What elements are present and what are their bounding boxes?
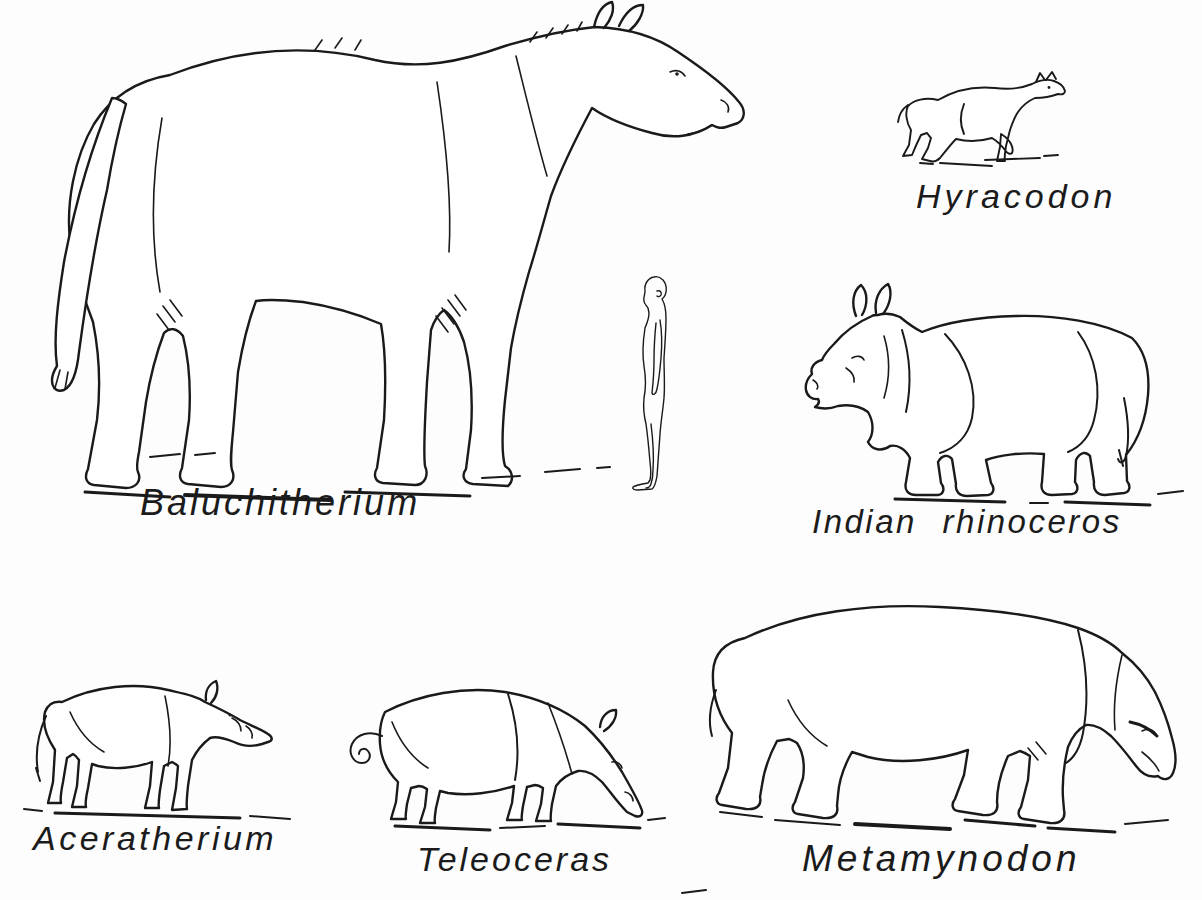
label-aceratherium: Aceratherium bbox=[33, 819, 277, 858]
teleoceras-curled-tail bbox=[351, 733, 382, 763]
indian-rhino-ground-dash bbox=[1158, 491, 1183, 494]
hyracodon-eye bbox=[1048, 86, 1051, 89]
indian-rhino-ears bbox=[853, 284, 890, 316]
teleoceras-ground-line bbox=[558, 824, 640, 828]
human-outline bbox=[633, 277, 667, 490]
metamynodon-ground-dash bbox=[1125, 820, 1168, 824]
metamynodon-ground-line bbox=[855, 824, 950, 829]
indian-rhinoceros-figure bbox=[806, 284, 1183, 505]
baluchitherium-figure bbox=[52, 2, 744, 500]
illustration-canvas: Baluchitherium Hyracodon Indian rhinocer… bbox=[0, 0, 1202, 900]
human-figure bbox=[633, 277, 667, 490]
teleoceras-ground-dash bbox=[648, 818, 665, 820]
baluchitherium-body-outline bbox=[69, 27, 744, 488]
indian-rhino-ground-line bbox=[895, 499, 1005, 502]
hyracodon-body-outline bbox=[903, 80, 1065, 161]
line-art bbox=[0, 0, 1202, 900]
aceratherium-ground-line bbox=[55, 813, 240, 818]
metamynodon-body-outline bbox=[713, 606, 1176, 823]
label-teleoceras: Teleoceras bbox=[417, 840, 612, 879]
aceratherium-ear bbox=[206, 681, 218, 703]
teleoceras-ear bbox=[600, 710, 616, 731]
hyracodon-figure bbox=[898, 72, 1065, 166]
label-hyracodon: Hyracodon bbox=[916, 177, 1116, 216]
bottom-center-ground-dash bbox=[682, 890, 706, 893]
teleoceras-figure bbox=[351, 690, 665, 830]
teleoceras-body-outline bbox=[380, 690, 642, 823]
label-indian-rhinoceros: Indian rhinoceros bbox=[812, 503, 1122, 541]
teleoceras-ground-dash bbox=[500, 826, 545, 828]
label-metamynodon: Metamynodon bbox=[802, 838, 1080, 880]
teleoceras-ground-line bbox=[395, 826, 490, 830]
human-ear bbox=[657, 291, 661, 297]
aceratherium-figure bbox=[24, 681, 290, 819]
human-arm bbox=[652, 320, 662, 394]
label-baluchitherium: Baluchitherium bbox=[140, 482, 420, 524]
hyracodon-ground-smudge bbox=[985, 158, 1040, 160]
aceratherium-eye bbox=[229, 714, 232, 717]
baluchitherium-eye-pupil bbox=[675, 72, 679, 76]
hyracodon-ground-line bbox=[940, 163, 992, 166]
aceratherium-body-outline bbox=[44, 686, 272, 810]
